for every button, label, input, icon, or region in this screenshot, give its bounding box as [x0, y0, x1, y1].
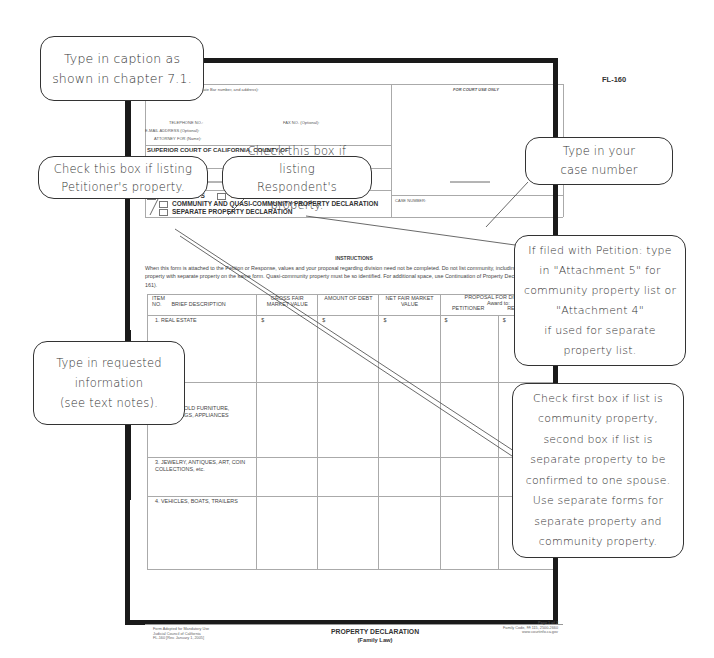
callout-case-number: Type in yourcase number: [525, 137, 673, 185]
callout-petitioner-checkbox: Check this box if listingPetitioner's pr…: [38, 156, 208, 199]
footer-title: PROPERTY DECLARATION (Family Law): [305, 628, 445, 644]
callout-caption: Type in caption asshown in chapter 7.1.: [40, 36, 204, 101]
property-table: ITEM NO. BRIEF DESCRIPTION GROSS FAIR MA…: [147, 294, 557, 570]
attorney-for-label[interactable]: ATTORNEY FOR (Name):: [154, 136, 201, 141]
instructions-title: INSTRUCTIONS: [145, 255, 563, 261]
email-label[interactable]: E-MAIL ADDRESS (Optional):: [145, 128, 200, 133]
footer-right: Page 1 of 2 Family Code, §§ 115, 2500-26…: [478, 621, 558, 635]
callout-first-box: Check first box if list is community pro…: [512, 383, 684, 558]
telephone-label[interactable]: TELEPHONE NO.:: [169, 120, 203, 125]
form-number: FL-160: [602, 75, 626, 84]
header-net-value: NET FAIR MARKET VALUE: [379, 295, 440, 316]
table-row[interactable]: 1. REAL ESTATE $ $ $ $ $: [148, 316, 557, 383]
separate-property-checkbox[interactable]: [159, 209, 168, 216]
debt-cell[interactable]: $: [318, 316, 379, 383]
callout-respondent-checkbox: Check this box if listingRespondent's pr…: [222, 156, 372, 199]
caption-connector: [126, 100, 131, 160]
community-property-checkbox[interactable]: [159, 201, 168, 208]
header-item-description: ITEM NO. BRIEF DESCRIPTION: [148, 295, 257, 316]
fax-label[interactable]: FAX NO. (Optional):: [283, 120, 320, 125]
callout-requested-info: Type in requested information (see text …: [33, 341, 185, 425]
table-row[interactable]: 3. JEWELRY, ANTIQUES, ART, COIN COLLECTI…: [148, 458, 557, 497]
instructions-text: When this form is attached to the Petiti…: [145, 264, 563, 289]
table-row[interactable]: 4. VEHICLES, BOATS, TRAILERS: [148, 497, 557, 570]
net-cell[interactable]: $: [379, 316, 440, 383]
row-jewelry: 3. JEWELRY, ANTIQUES, ART, COIN COLLECTI…: [148, 458, 257, 497]
gross-cell[interactable]: $: [257, 316, 318, 383]
respondents-checkbox[interactable]: [217, 193, 226, 200]
court-use-label: FOR COURT USE ONLY: [453, 87, 499, 92]
header-debt: AMOUNT OF DEBT: [318, 295, 379, 316]
footer-left: Form Adopted for Mandatory Use Judicial …: [153, 627, 209, 641]
header-gross-value: GROSS FAIR MARKET VALUE: [257, 295, 318, 316]
case-number-label[interactable]: CASE NUMBER:: [395, 198, 426, 203]
row-vehicles: 4. VEHICLES, BOATS, TRAILERS: [148, 497, 257, 570]
callout-attachment: If filed with Petition: type in "Attachm…: [514, 235, 686, 366]
table-row[interactable]: 2. HOUSEHOLD FURNITURE, FURNISHINGS, APP…: [148, 383, 557, 458]
